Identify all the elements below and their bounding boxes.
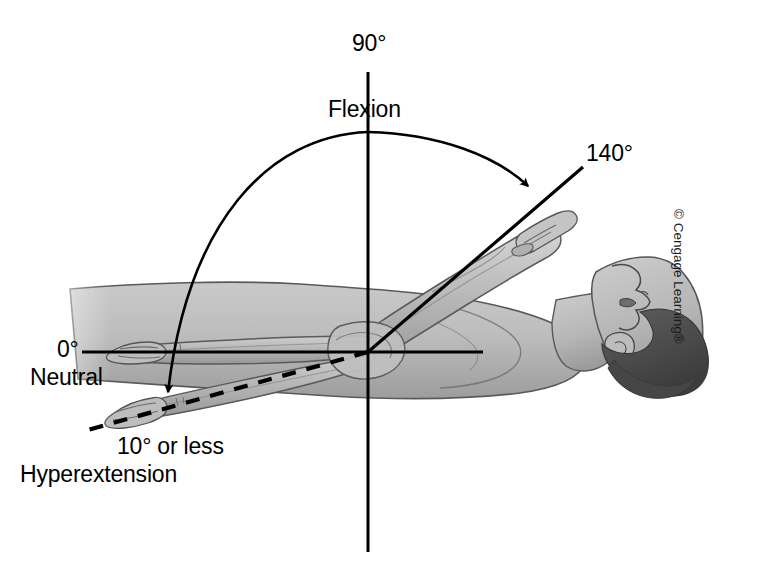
copyright-notice: © Cengage Learning® <box>671 209 686 344</box>
label-flexion: Flexion <box>328 96 401 122</box>
label-neutral: Neutral <box>30 364 103 390</box>
label-hyperextension-amount: 10° or less <box>117 433 224 459</box>
label-140-degrees: 140° <box>586 140 633 166</box>
label-neutral-group: 0° Neutral <box>30 336 103 390</box>
label-hyperextension: Hyperextension <box>20 461 224 487</box>
shoulder-rom-diagram: 90° Flexion 140° 0° Neutral 10° or less … <box>0 0 757 579</box>
label-0-degrees: 0° <box>57 336 103 362</box>
diagram-canvas <box>0 0 757 579</box>
flexion-arc-right <box>368 132 528 186</box>
label-90-degrees: 90° <box>352 30 386 56</box>
supine-body-illustration <box>48 211 708 445</box>
label-hyperextension-group: 10° or less Hyperextension <box>20 433 224 487</box>
